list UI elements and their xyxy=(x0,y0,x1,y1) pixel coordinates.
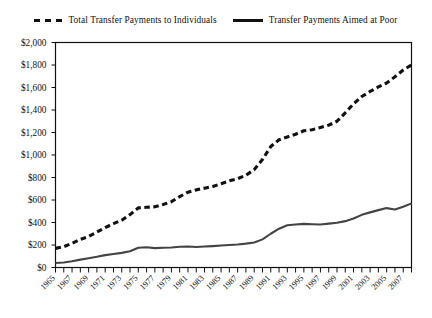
y-axis-tick-label: $1,800 xyxy=(21,60,47,70)
y-axis-tick-label: $800 xyxy=(28,173,47,183)
x-axis-tick-marks xyxy=(56,268,412,273)
chart-canvas: $0$200$400$600$800$1,000$1,200$1,400$1,6… xyxy=(0,0,432,318)
y-axis-tick-label: $2,000 xyxy=(21,38,47,48)
chart-series xyxy=(56,65,412,263)
plot-frame xyxy=(56,43,412,268)
y-axis-tick-label: $1,400 xyxy=(21,105,47,115)
x-axis-tick-label: 1979 xyxy=(155,274,173,292)
x-axis-tick-label: 2001 xyxy=(337,274,355,292)
x-axis-tick-label: 1989 xyxy=(237,274,255,292)
x-axis-tick-label: 1965 xyxy=(39,274,57,292)
x-axis-tick-label: 2005 xyxy=(370,274,388,292)
y-axis-tick-label: $1,000 xyxy=(21,150,47,160)
x-axis-tick-label: 1975 xyxy=(121,274,139,292)
x-axis-tick-label: 1995 xyxy=(287,274,305,292)
x-axis-tick-label: 2007 xyxy=(386,274,404,292)
x-axis-tick-label: 1969 xyxy=(72,274,90,292)
y-axis-tick-label: $200 xyxy=(28,240,47,250)
x-axis-tick-label: 1977 xyxy=(138,274,156,292)
y-axis-tick-label: $600 xyxy=(28,195,47,205)
y-axis-tick-label: $400 xyxy=(28,218,47,228)
series-line-transfer-payments-poor xyxy=(56,203,412,263)
y-axis-tick-label: $1,600 xyxy=(21,83,47,93)
y-axis-tick-label: $0 xyxy=(37,263,47,273)
x-axis-tick-label: 1993 xyxy=(271,274,289,292)
x-axis-tick-label: 1991 xyxy=(254,274,272,292)
line-chart: $0$200$400$600$800$1,000$1,200$1,400$1,6… xyxy=(0,0,432,318)
x-axis-tick-label: 1971 xyxy=(88,274,106,292)
x-axis-tick-label: 1981 xyxy=(171,274,189,292)
x-axis-tick-label: 1997 xyxy=(304,274,322,292)
x-axis-tick-label: 1967 xyxy=(55,274,73,292)
x-axis-tick-label: 2003 xyxy=(353,274,371,292)
x-axis-tick-label: 1983 xyxy=(188,274,206,292)
series-line-total-transfer-payments xyxy=(56,65,412,248)
x-axis-tick-label: 1973 xyxy=(105,274,123,292)
x-axis-tick-label: 1999 xyxy=(320,274,338,292)
x-axis-tick-label: 1987 xyxy=(221,274,239,292)
x-axis-tick-label: 1985 xyxy=(204,274,222,292)
y-axis-tick-labels: $0$200$400$600$800$1,000$1,200$1,400$1,6… xyxy=(21,38,47,273)
x-axis-tick-labels: 1965196719691971197319751977197919811983… xyxy=(39,274,405,292)
y-axis-tick-label: $1,200 xyxy=(21,128,47,138)
